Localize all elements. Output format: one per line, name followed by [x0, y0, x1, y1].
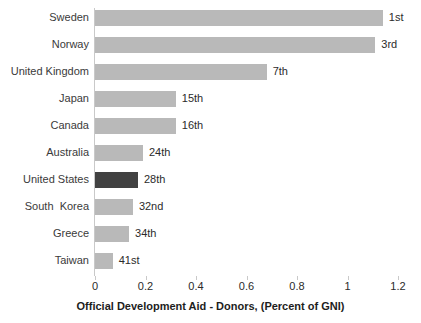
bar-row: Canada16th	[0, 116, 421, 143]
bar-row: Taiwan41st	[0, 251, 421, 278]
x-tick-label: 0	[92, 280, 98, 293]
bar-value-label: 16th	[182, 119, 203, 132]
bar-row: Japan15th	[0, 89, 421, 116]
x-tick-label: 0.2	[138, 280, 153, 293]
category-label: United Kingdom	[0, 65, 89, 78]
bar[interactable]	[95, 64, 267, 80]
bar-row: United States28th	[0, 170, 421, 197]
bar-row: Australia24th	[0, 143, 421, 170]
category-label: Sweden	[0, 11, 89, 24]
bar-row: Norway3rd	[0, 35, 421, 62]
bar-value-label: 24th	[149, 146, 170, 159]
plot-area: Sweden1stNorway3rdUnited Kingdom7thJapan…	[0, 0, 421, 283]
bar[interactable]	[95, 226, 129, 242]
bar-row: Greece34th	[0, 224, 421, 251]
category-label: United States	[0, 173, 89, 186]
category-label: Australia	[0, 146, 89, 159]
bar-value-label: 3rd	[381, 38, 397, 51]
x-axis: 00.20.40.60.811.2	[0, 276, 421, 298]
x-axis-title: Official Development Aid - Donors, (Perc…	[0, 300, 421, 312]
category-label: Taiwan	[0, 254, 89, 267]
bar[interactable]	[95, 145, 143, 161]
category-label: South Korea	[0, 200, 89, 213]
bar[interactable]	[95, 118, 176, 134]
bar-value-label: 34th	[135, 227, 156, 240]
x-tick-label: 1	[344, 280, 350, 293]
x-tick-label: 0.6	[239, 280, 254, 293]
bar-value-label: 32nd	[139, 200, 163, 213]
bar-row: South Korea32nd	[0, 197, 421, 224]
bar[interactable]	[95, 91, 176, 107]
bar-value-label: 15th	[182, 92, 203, 105]
bar-value-label: 1st	[389, 11, 404, 24]
bar-value-label: 41st	[119, 254, 140, 267]
x-tick-label: 1.2	[390, 280, 405, 293]
bar-chart: Sweden1stNorway3rdUnited Kingdom7thJapan…	[0, 0, 421, 323]
bar-value-label: 28th	[144, 173, 165, 186]
category-label: Japan	[0, 92, 89, 105]
x-tick-label: 0.4	[188, 280, 203, 293]
category-label: Canada	[0, 119, 89, 132]
category-label: Greece	[0, 227, 89, 240]
x-tick-label: 0.8	[289, 280, 304, 293]
bar[interactable]	[95, 172, 138, 188]
bar-row: Sweden1st	[0, 8, 421, 35]
bar[interactable]	[95, 199, 133, 215]
bar[interactable]	[95, 10, 383, 26]
bar-row: United Kingdom7th	[0, 62, 421, 89]
bar[interactable]	[95, 37, 375, 53]
category-label: Norway	[0, 38, 89, 51]
bar-value-label: 7th	[273, 65, 288, 78]
bar[interactable]	[95, 253, 113, 269]
